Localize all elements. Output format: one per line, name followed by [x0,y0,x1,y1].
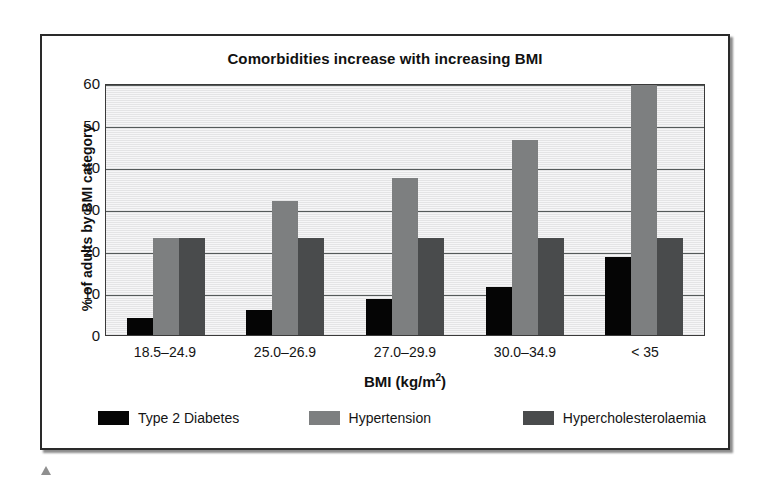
bar[interactable] [246,310,272,335]
x-axis-tick: < 35 [590,344,700,360]
figure-frame: Comorbidities increase with increasing B… [40,34,730,450]
bar[interactable] [366,299,392,335]
bar[interactable] [605,257,631,335]
legend-label: Hypertension [349,410,432,426]
x-axis-tick: 25.0–26.9 [230,344,340,360]
bar[interactable] [418,238,444,335]
bar[interactable] [538,238,564,335]
bar-group [366,85,444,335]
chart-legend: Type 2 DiabetesHypertensionHypercholeste… [98,410,706,426]
chart-title: Comorbidities increase with increasing B… [42,50,728,67]
x-axis-title-base: BMI (kg/m [364,373,436,390]
bar[interactable] [512,140,538,335]
bar[interactable] [631,85,657,335]
x-axis-title-close: ) [441,373,446,390]
legend-item[interactable]: Hypertension [309,410,523,426]
page-arrow-marker [41,466,51,475]
legend-label: Type 2 Diabetes [138,410,239,426]
legend-label: Hypercholesterolaemia [563,410,706,426]
y-axis-tick: 60 [66,75,100,92]
legend-swatch-icon [98,411,129,425]
x-axis-tick: 30.0–34.9 [470,344,580,360]
bar-groups [106,85,704,335]
legend-item[interactable]: Hypercholesterolaemia [523,410,706,426]
bar[interactable] [657,238,683,335]
bar[interactable] [298,238,324,335]
bar[interactable] [486,287,512,335]
legend-swatch-icon [523,411,554,425]
bar[interactable] [153,238,179,335]
bar[interactable] [272,201,298,335]
x-axis-tick-labels: 18.5–24.925.0–26.927.0–29.930.0–34.9< 35 [105,344,705,360]
bar-group [605,85,683,335]
legend-item[interactable]: Type 2 Diabetes [98,410,309,426]
x-axis-tick: 27.0–29.9 [350,344,460,360]
y-axis-title: % of adults by BMI category [79,92,95,344]
legend-swatch-icon [309,411,340,425]
bar-group [486,85,564,335]
bar[interactable] [392,178,418,336]
plot-area [105,84,705,336]
bar-group [246,85,324,335]
bar-group [127,85,205,335]
bar[interactable] [179,238,205,335]
bar[interactable] [127,318,153,335]
x-axis-title: BMI (kg/m2) [105,372,705,390]
x-axis-tick: 18.5–24.9 [110,344,220,360]
